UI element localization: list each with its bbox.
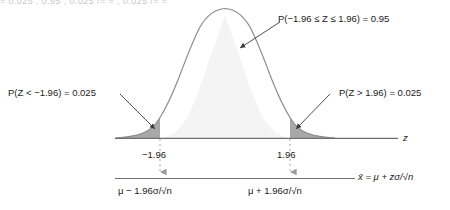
figure-container: = 0.025 , 0.95 , 0.025 /= = , 0.025 /= = xyxy=(0,0,450,210)
left-annotation-arrow xyxy=(120,94,155,129)
xbar-axis-label: x̄ = μ + zσ/√n xyxy=(358,172,413,182)
z-tick-label-negative: −1.96 xyxy=(142,150,166,160)
right-annotation-arrow xyxy=(296,94,330,129)
left-tail-probability-annotation: P(Z < −1.96) = 0.025 xyxy=(8,88,96,98)
z-axis-label: z xyxy=(403,133,408,143)
xbar-tick-label-lower: μ − 1.96σ/√n xyxy=(118,186,172,196)
right-tail-probability-annotation: P(Z > 1.96) = 0.025 xyxy=(339,88,421,98)
center-probability-annotation: P(−1.96 ≤ Z ≤ 1.96) = 0.95 xyxy=(278,14,389,24)
center-annotation-arrow xyxy=(240,22,280,48)
z-tick-label-positive: 1.96 xyxy=(277,150,296,160)
xbar-tick-label-upper: μ + 1.96σ/√n xyxy=(248,186,302,196)
